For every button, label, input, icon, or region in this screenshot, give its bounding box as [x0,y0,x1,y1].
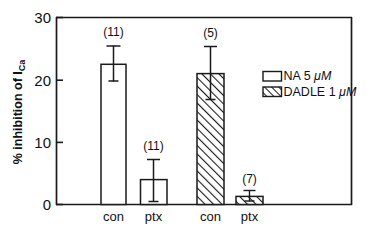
x-label-dadle-con: con [200,209,221,224]
count-label-dadle-con: (5) [203,26,218,40]
y-axis-title-subscript: Ca [17,59,27,71]
legend-label-dadle-conc: 1 [329,85,336,99]
y-tick-label-20: 20 [34,72,51,89]
y-tick-label-30: 30 [34,9,51,26]
legend-swatch-dadle [263,87,282,97]
y-axis-title: % inhibition of ICa [11,59,27,165]
legend-label-na-text: NA [284,69,302,83]
bar-chart: 30 20 10 0 % inhibition of ICa (11) [0,0,367,239]
y-tick-label-10: 10 [34,134,51,151]
legend-label-dadle-unit: μM [338,85,357,99]
bar-na-con[interactable] [101,64,126,204]
legend-label-na-unit: μM [313,69,332,83]
legend-label-na: NA 5 μM [284,69,332,83]
legend-item-dadle[interactable]: DADLE 1 μM [263,85,357,99]
legend-label-dadle-text: DADLE [284,85,326,99]
legend-label-dadle: DADLE 1 μM [284,85,357,99]
legend-label-na-conc: 5 [304,69,311,83]
x-label-na-con: con [103,209,124,224]
legend-swatch-na [263,72,282,82]
count-label-na-ptx: (11) [143,139,163,153]
count-label-dadle-ptx: (7) [242,172,257,186]
y-axis-title-main: % inhibition of ICa [11,59,27,165]
y-tick-label-0: 0 [43,196,51,213]
count-label-na-con: (11) [103,25,123,39]
x-label-na-ptx: ptx [145,209,163,224]
figure-container: 30 20 10 0 % inhibition of ICa (11) [0,0,367,239]
x-label-dadle-ptx: ptx [241,209,259,224]
y-axis-title-text: % inhibition of I [11,71,25,164]
legend-item-na[interactable]: NA 5 μM [263,69,332,83]
